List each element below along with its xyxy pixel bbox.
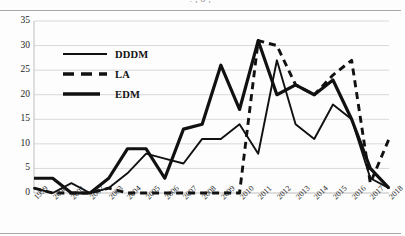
title-remnant: . , o , [0,0,401,9]
legend-item-la[interactable]: LA [62,64,182,84]
x-tick-label-2018: 2018 [387,184,405,202]
y-axis-labels: 05101520253035 [0,21,30,193]
legend-label-dddm: DDDM [115,49,148,60]
legend-item-dddm[interactable]: DDDM [62,44,182,64]
y-tick-label-0: 0 [4,188,30,198]
x-axis-labels: 1999200020012002200320042005200620072008… [34,195,389,235]
y-tick-label-5: 5 [4,163,30,173]
legend-label-la: LA [115,69,130,80]
y-tick-label-25: 25 [4,65,30,75]
chart-legend: DDDMLAEDM [62,44,182,104]
bottom-rule [0,233,401,234]
legend-line-dashed-icon [62,68,108,80]
top-rule [0,10,401,11]
legend-line-thick-icon [62,88,108,100]
y-tick-label-30: 30 [4,41,30,51]
y-tick-label-35: 35 [4,16,30,26]
legend-label-edm: EDM [115,89,140,100]
legend-item-edm[interactable]: EDM [62,84,182,104]
y-tick-label-15: 15 [4,114,30,124]
y-tick-label-20: 20 [4,90,30,100]
y-tick-label-10: 10 [4,139,30,149]
legend-line-solid-icon [62,48,108,60]
